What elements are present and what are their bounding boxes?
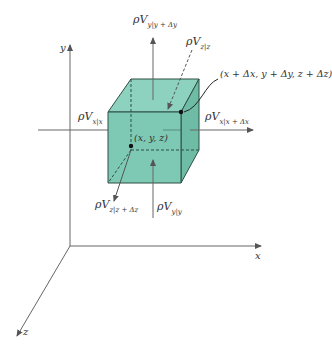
z-axis — [17, 246, 70, 336]
diagram-graphics — [0, 0, 332, 353]
flux-x-out-label: ρVx|x + Δx — [205, 111, 249, 122]
flux-z-in-label: ρVz|z — [186, 36, 210, 47]
flux-y-out-label: ρVy|y + Δy — [133, 14, 177, 25]
origin-corner-dot — [129, 144, 133, 148]
control-volume-diagram: y x z (x, y, z) (x + Δx, y + Δy, z + Δz)… — [0, 0, 332, 353]
far-corner-label: (x + Δx, y + Δy, z + Δz) — [220, 69, 332, 79]
far-corner-dot — [179, 110, 183, 114]
x-axis-label: x — [255, 251, 261, 261]
flux-x-in-label: ρVx|x — [78, 111, 103, 122]
z-axis-label: z — [23, 327, 28, 337]
flux-z-out-label: ρVz|z + Δz — [95, 199, 138, 210]
flux-y-in-label: ρVy|y — [157, 201, 182, 212]
y-axis-label: y — [60, 43, 66, 53]
origin-corner-label: (x, y, z) — [134, 133, 168, 143]
